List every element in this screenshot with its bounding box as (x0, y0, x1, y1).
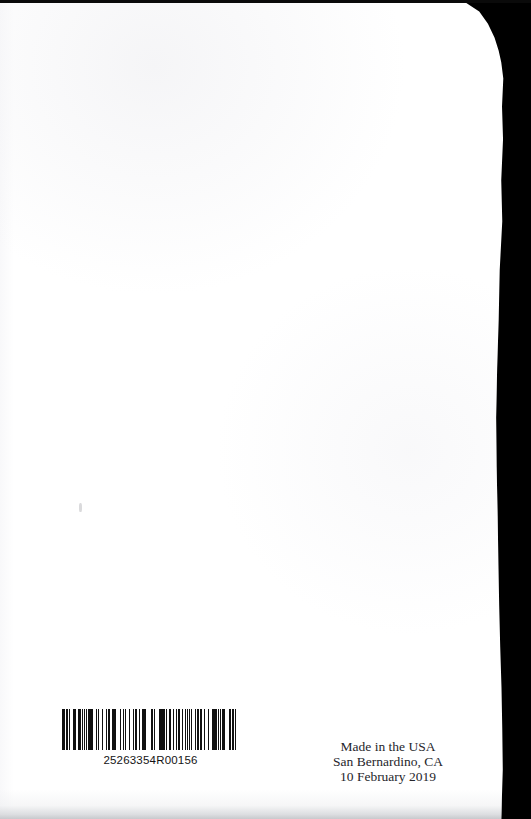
book-back-cover-page: 25263354R00156 Made in the USA San Berna… (0, 0, 512, 819)
scanned-page-canvas: 25263354R00156 Made in the USA San Berna… (0, 0, 531, 819)
barcode-bar (236, 709, 238, 750)
page-bottom-shadow (0, 789, 512, 819)
imprint-line-city: San Bernardino, CA (300, 754, 476, 769)
imprint-line-date: 10 February 2019 (300, 769, 476, 784)
imprint-line-made-in: Made in the USA (300, 739, 476, 754)
scan-top-edge-strip (0, 0, 531, 3)
barcode-number: 25263354R00156 (62, 754, 239, 766)
paper-texture-overlay (0, 0, 512, 819)
scan-artifact-speck (79, 503, 82, 512)
imprint-text-block: Made in the USA San Bernardino, CA 10 Fe… (300, 739, 476, 785)
barcode: 25263354R00156 (62, 709, 239, 766)
barcode-bars (62, 709, 239, 750)
